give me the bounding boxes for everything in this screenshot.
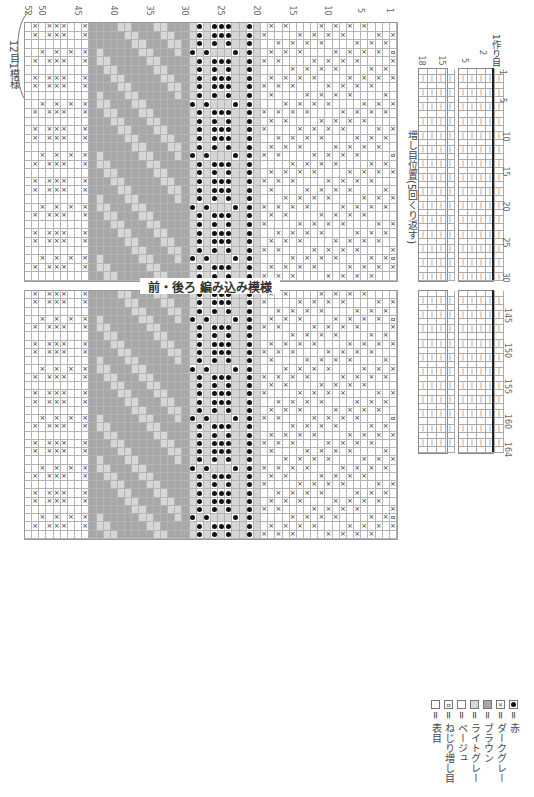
chart-cell — [318, 100, 325, 109]
chart-cell — [361, 32, 368, 41]
chart-cell — [383, 143, 390, 152]
chart-cell — [139, 204, 146, 213]
chart-cell — [204, 212, 211, 221]
chart-cell — [168, 465, 175, 473]
ribbing-cell: — — [468, 425, 477, 433]
ribbing-cell: — — [446, 311, 455, 319]
chart-cell — [368, 92, 375, 101]
chart-cell — [89, 212, 96, 221]
chart-cell — [46, 272, 53, 281]
chart-cell — [254, 118, 261, 127]
row-label: 20 — [252, 5, 261, 15]
chart-cell — [97, 100, 104, 109]
chart-cell — [190, 365, 197, 373]
chart-cell: × — [283, 473, 290, 481]
chart-cell — [111, 75, 118, 84]
chart-cell — [118, 126, 125, 135]
chart-cell: × — [268, 118, 275, 127]
chart-cell: × — [61, 161, 68, 170]
chart-cell — [232, 118, 239, 127]
chart-cell — [32, 247, 39, 256]
chart-cell — [225, 489, 232, 497]
chart-cell — [89, 365, 96, 373]
chart-cell — [118, 390, 125, 398]
chart-cell — [161, 407, 168, 415]
chart-cell — [147, 255, 154, 264]
chart-cell — [118, 83, 125, 92]
chart-cell — [75, 374, 82, 382]
chart-cell — [211, 100, 218, 109]
chart-cell — [118, 407, 125, 415]
stitch-label: 1 — [498, 70, 507, 75]
chart-cell — [297, 247, 304, 256]
chart-cell — [190, 522, 197, 530]
chart-cell — [25, 423, 32, 431]
chart-cell — [218, 514, 225, 522]
chart-cell — [211, 489, 218, 497]
chart-cell — [139, 481, 146, 489]
chart-cell — [247, 152, 254, 161]
chart-cell — [247, 169, 254, 178]
ribbing-cell: — — [428, 439, 437, 447]
chart-cell — [218, 365, 225, 373]
chart-cell — [318, 238, 325, 247]
chart-cell — [197, 75, 204, 84]
chart-cell — [25, 92, 32, 101]
chart-cell: × — [61, 264, 68, 273]
chart-cell — [154, 255, 161, 264]
ribbing-cell: — — [446, 174, 455, 182]
chart-cell — [25, 195, 32, 204]
chart-cell — [232, 374, 239, 382]
chart-cell: × — [54, 57, 61, 66]
chart-cell — [297, 83, 304, 92]
chart-cell — [354, 357, 361, 365]
chart-cell — [340, 255, 347, 264]
chart-cell — [211, 432, 218, 440]
chart-cell — [197, 178, 204, 187]
chart-cell: × — [347, 118, 354, 127]
chart-cell — [297, 324, 304, 332]
chart-cell — [168, 178, 175, 187]
chart-cell — [104, 178, 111, 187]
chart-cell — [175, 152, 182, 161]
chart-cell — [333, 264, 340, 273]
chart-cell: × — [61, 109, 68, 118]
chart-cell — [254, 135, 261, 144]
chart-cell — [240, 161, 247, 170]
chart-cell: × — [268, 186, 275, 195]
chart-cell — [175, 522, 182, 530]
chart-cell — [218, 324, 225, 332]
chart-cell: × — [290, 489, 297, 497]
chart-cell — [139, 489, 146, 497]
chart-cell — [311, 83, 318, 92]
chart-cell — [261, 161, 268, 170]
chart-cell — [240, 143, 247, 152]
chart-cell — [211, 332, 218, 340]
ribbing-cell: — — [468, 354, 477, 362]
chart-cell — [247, 118, 254, 127]
chart-cell: × — [340, 374, 347, 382]
chart-cell: × — [368, 374, 375, 382]
chart-cell: × — [268, 92, 275, 101]
chart-cell — [75, 75, 82, 84]
ribbing-cell: — — [446, 425, 455, 433]
chart-cell — [182, 247, 189, 256]
chart-cell — [383, 341, 390, 349]
chart-cell — [247, 109, 254, 118]
chart-cell — [368, 23, 375, 32]
chart-cell — [161, 465, 168, 473]
chart-cell: × — [361, 23, 368, 32]
ribbing-cell: — — [446, 216, 455, 224]
chart-cell — [75, 126, 82, 135]
chart-cell: × — [283, 238, 290, 247]
chart-cell: × — [297, 522, 304, 530]
chart-cell — [197, 118, 204, 127]
chart-cell — [147, 75, 154, 84]
chart-cell — [211, 506, 218, 514]
chart-cell: × — [354, 272, 361, 281]
chart-cell — [247, 308, 254, 316]
chart-cell — [111, 407, 118, 415]
chart-cell — [161, 357, 168, 365]
chart-cell — [240, 506, 247, 514]
chart-cell — [89, 324, 96, 332]
